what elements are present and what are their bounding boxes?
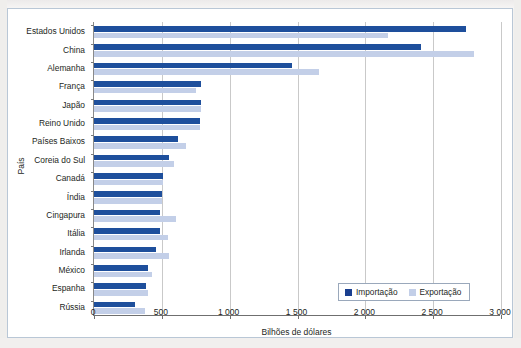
y-axis-category-label: Coreia do Sul xyxy=(34,155,85,165)
x-axis-tick-label: 0 xyxy=(91,307,96,317)
bar-importacao xyxy=(94,173,163,179)
y-axis-tick xyxy=(91,62,94,63)
bar-importacao xyxy=(94,210,160,216)
y-axis-category-label: China xyxy=(63,45,85,55)
y-axis-tick xyxy=(91,80,94,81)
bar-importacao xyxy=(94,265,148,271)
x-gridline xyxy=(298,22,299,315)
y-axis-tick xyxy=(91,99,94,100)
y-axis-tick xyxy=(91,227,94,228)
chart-frame: País Bilhões de dólares Importação Expor… xyxy=(7,8,513,338)
bar-exportacao xyxy=(94,290,148,296)
y-axis-tick xyxy=(91,209,94,210)
y-axis-category-label: Espanha xyxy=(52,283,85,293)
bar-importacao xyxy=(94,247,156,253)
x-axis-title: Bilhões de dólares xyxy=(93,327,500,337)
bar-exportacao xyxy=(94,272,152,278)
legend-label-exportacao: Exportação xyxy=(420,287,462,297)
y-axis-category-label: França xyxy=(59,81,85,91)
bar-exportacao xyxy=(94,235,168,241)
y-axis-category-label: Canadá xyxy=(56,173,85,183)
y-axis-tick xyxy=(91,301,94,302)
x-axis-tick-label: 1 000 xyxy=(218,307,239,317)
bar-exportacao xyxy=(94,69,319,75)
bar-exportacao xyxy=(94,88,196,94)
y-axis-tick xyxy=(91,172,94,173)
y-axis-category-label: México xyxy=(58,265,85,275)
y-axis-tick xyxy=(91,264,94,265)
bar-importacao xyxy=(94,191,162,197)
x-axis-tick-label: 1 500 xyxy=(286,307,307,317)
y-axis-category-label: Cingapura xyxy=(46,210,85,220)
bar-importacao xyxy=(94,283,146,289)
y-axis-title-wrap: País xyxy=(22,9,36,339)
x-axis-tick-label: 2 000 xyxy=(354,307,375,317)
bar-importacao xyxy=(94,155,169,161)
y-axis-category-label: Reino Unido xyxy=(39,118,85,128)
y-axis-tick xyxy=(91,282,94,283)
x-axis-tick-label: 2 500 xyxy=(422,307,443,317)
legend-swatch-icon-importacao xyxy=(345,289,352,296)
y-axis-category-label: Itália xyxy=(67,228,85,238)
bar-importacao xyxy=(94,63,292,69)
y-axis-category-label: Rússia xyxy=(59,302,85,312)
bar-exportacao xyxy=(94,308,145,314)
plot-area xyxy=(93,22,500,316)
bar-importacao xyxy=(94,100,201,106)
y-axis-tick xyxy=(91,25,94,26)
x-axis-tick-label: 3 000 xyxy=(489,307,510,317)
x-gridline xyxy=(365,22,366,315)
page-bottom-margin xyxy=(0,338,521,348)
y-axis-category-label: Países Baixos xyxy=(32,136,85,146)
y-axis-tick xyxy=(91,44,94,45)
bar-exportacao xyxy=(94,106,201,112)
bar-exportacao xyxy=(94,51,474,57)
y-axis-category-label: Estados Unidos xyxy=(26,26,85,36)
bar-importacao xyxy=(94,26,466,32)
legend-label-importacao: Importação xyxy=(356,287,398,297)
bar-importacao xyxy=(94,228,160,234)
y-axis-tick xyxy=(91,117,94,118)
y-axis-tick xyxy=(91,154,94,155)
bar-exportacao xyxy=(94,216,176,222)
legend-item-importacao: Importação xyxy=(345,287,398,297)
y-axis-tick xyxy=(91,191,94,192)
y-axis-tick xyxy=(91,135,94,136)
bar-exportacao xyxy=(94,180,163,186)
y-axis-tick xyxy=(91,246,94,247)
chart-title-cropped xyxy=(0,0,521,7)
bar-importacao xyxy=(94,81,201,87)
y-axis-category-label: Japão xyxy=(62,100,85,110)
page-left-margin xyxy=(0,0,7,348)
x-axis-tick-label: 500 xyxy=(154,307,168,317)
chart-legend: Importação Exportação xyxy=(338,283,470,301)
bar-exportacao xyxy=(94,198,162,204)
y-axis-category-label: Alemanha xyxy=(47,63,85,73)
scanned-page: País Bilhões de dólares Importação Expor… xyxy=(0,0,521,348)
bar-exportacao xyxy=(94,143,186,149)
bar-importacao xyxy=(94,44,421,50)
bar-exportacao xyxy=(94,125,200,131)
legend-item-exportacao: Exportação xyxy=(409,287,462,297)
bar-exportacao xyxy=(94,33,388,39)
bar-importacao xyxy=(94,118,200,124)
y-axis-category-label: Irlanda xyxy=(59,247,85,257)
legend-swatch-icon-exportacao xyxy=(409,289,416,296)
page-right-margin xyxy=(514,0,521,348)
x-gridline xyxy=(433,22,434,315)
bar-importacao xyxy=(94,136,178,142)
bar-exportacao xyxy=(94,161,174,167)
bar-importacao xyxy=(94,302,135,308)
x-gridline xyxy=(501,22,502,315)
bar-exportacao xyxy=(94,253,169,259)
y-axis-title: País xyxy=(16,157,26,174)
y-axis-category-label: Índia xyxy=(67,192,85,202)
